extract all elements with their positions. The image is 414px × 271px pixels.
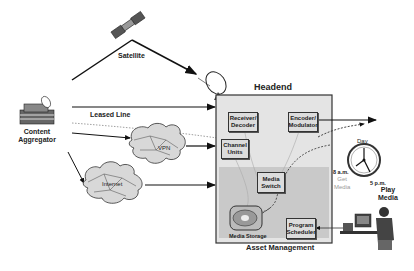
satellite-label: Satellite	[118, 52, 145, 60]
asset-management-label: Asset Management	[246, 244, 314, 252]
headend-title: Headend	[254, 83, 292, 91]
channel-units-box: Channel Units	[221, 139, 249, 159]
day-label: Day	[357, 137, 368, 145]
media-switch-box: Media Switch	[257, 172, 285, 193]
content-aggregator-label: Content Aggregator	[14, 128, 60, 144]
vpn-label: VPN	[158, 144, 170, 152]
program-scheduler-box: Program Scheduler	[286, 218, 316, 239]
diagram-lines	[0, 0, 414, 271]
person-at-computer-icon	[340, 207, 394, 250]
get-media-label: Get Media	[334, 175, 350, 191]
building-icon	[20, 95, 54, 124]
internet-label: Internet	[102, 180, 122, 188]
encoder-modulator-box: Encoder/ Modulator	[288, 112, 318, 132]
receiver-decoder-box: Receiver/ Decoder	[228, 112, 258, 132]
media-storage-icon	[230, 206, 262, 230]
play-media-label: Play Media	[378, 186, 398, 202]
media-storage-label: Media Storage	[229, 232, 267, 240]
clock-icon	[348, 144, 380, 176]
satellite-icon	[111, 11, 145, 38]
leased-line-label: Leased Line	[90, 111, 130, 119]
